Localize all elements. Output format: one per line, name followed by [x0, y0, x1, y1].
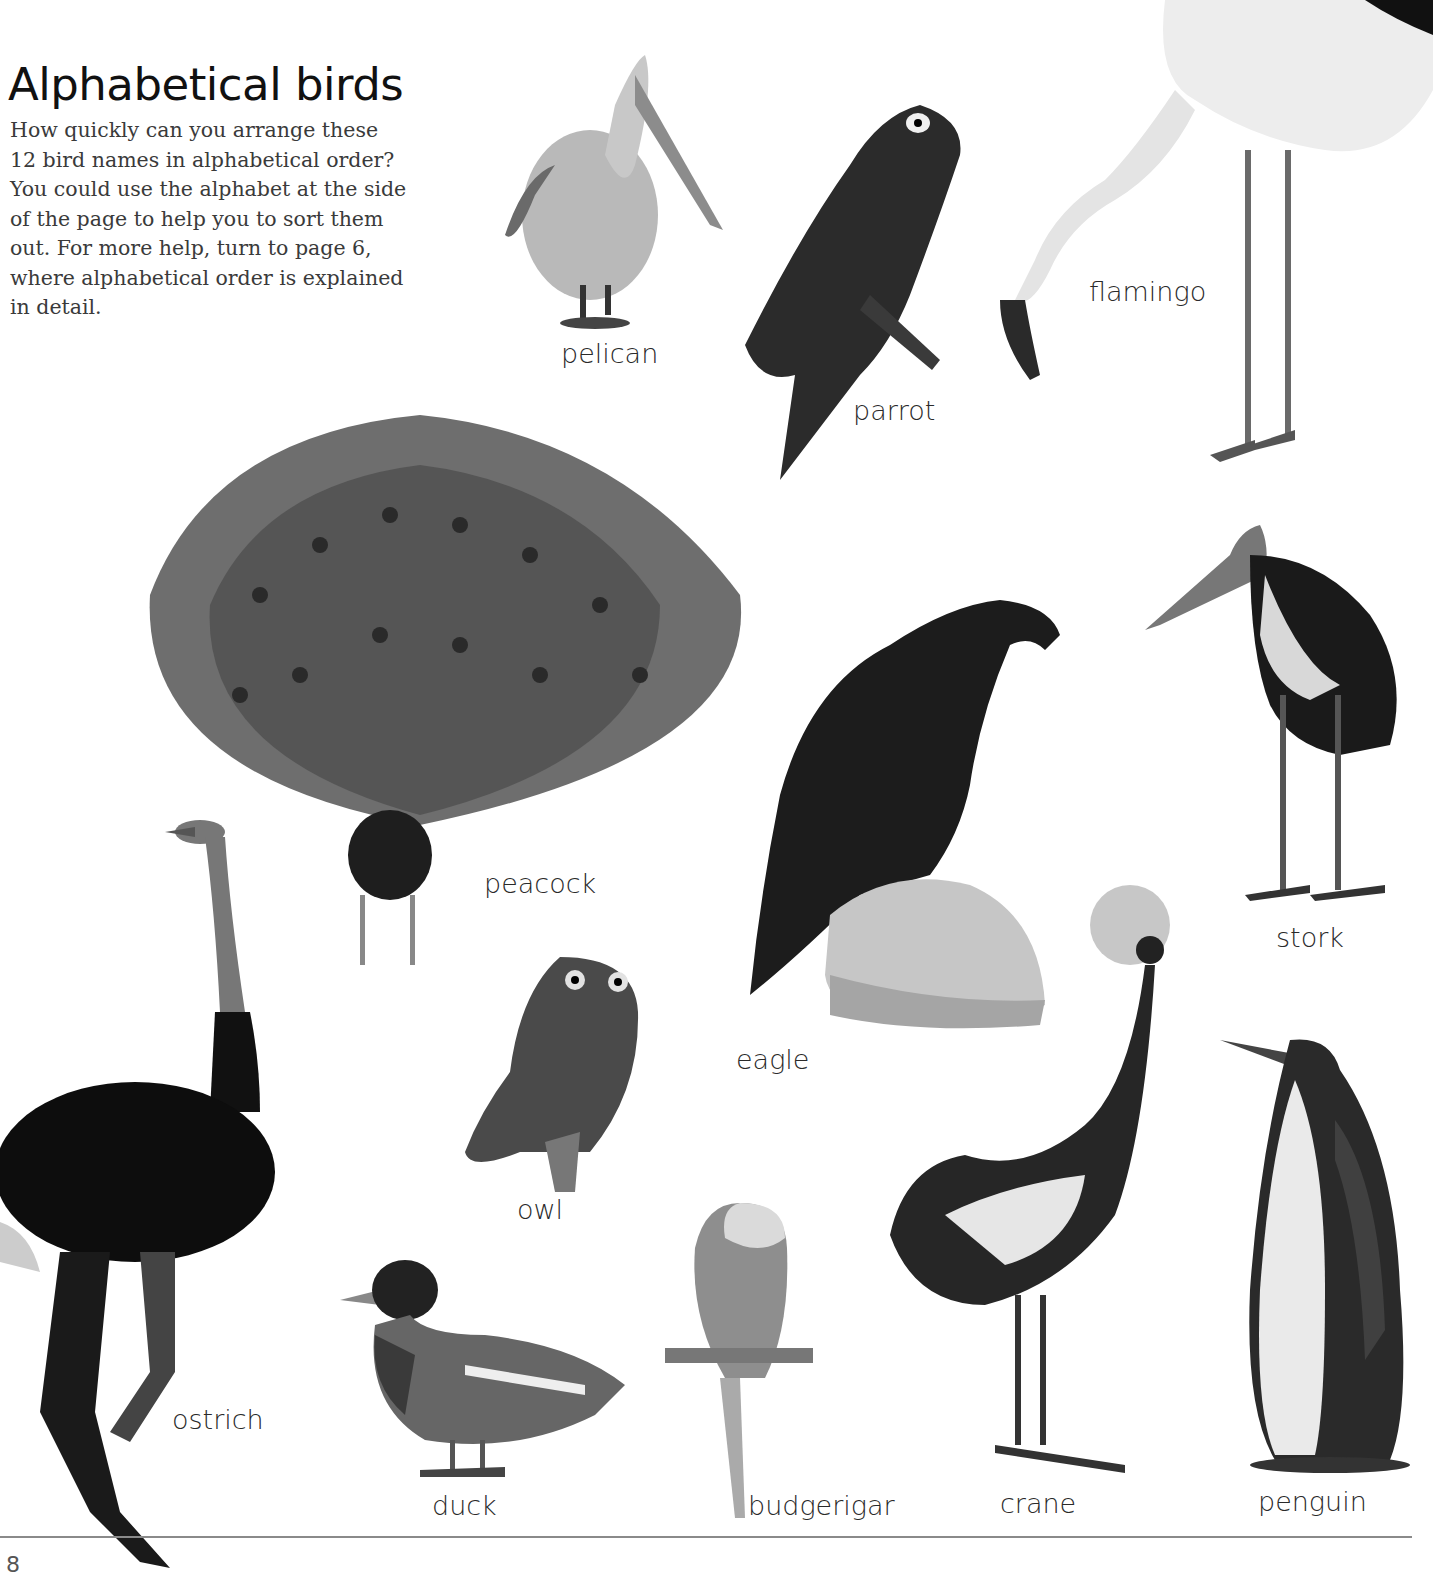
penguin-image	[1215, 1030, 1420, 1475]
bird-label-stork: stork	[1276, 922, 1344, 953]
flamingo-image	[995, 0, 1433, 470]
bird-label-duck: duck	[432, 1490, 497, 1521]
crane-image	[885, 885, 1185, 1480]
bird-label-penguin: penguin	[1258, 1486, 1367, 1517]
bird-label-ostrich: ostrich	[172, 1404, 264, 1435]
bird-label-pelican: pelican	[561, 338, 658, 369]
duck-image	[335, 1255, 630, 1480]
bird-label-owl: owl	[517, 1194, 563, 1225]
bird-label-parrot: parrot	[853, 395, 935, 426]
owl-image	[460, 952, 645, 1192]
bird-label-crane: crane	[1000, 1488, 1076, 1519]
bird-label-peacock: peacock	[484, 868, 596, 899]
ostrich-image	[0, 812, 280, 1568]
bird-label-budgerigar: budgerigar	[748, 1490, 895, 1521]
intro-paragraph: How quickly can you arrange these 12 bir…	[10, 116, 410, 323]
page-title: Alphabetical birds	[8, 58, 403, 111]
budgerigar-image	[665, 1198, 813, 1523]
footer-rule	[0, 1536, 1412, 1538]
stork-image	[1140, 515, 1410, 905]
page-number: 8	[6, 1552, 20, 1576]
pelican-image	[495, 45, 730, 330]
bird-label-flamingo: flamingo	[1089, 276, 1206, 307]
bird-label-eagle: eagle	[736, 1044, 809, 1075]
